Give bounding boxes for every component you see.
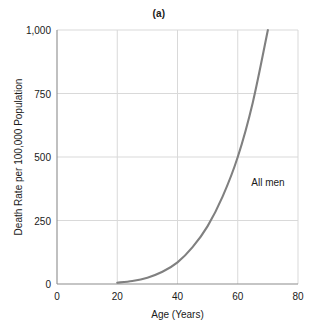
y-tick-label-1000: 1,000 xyxy=(26,25,51,36)
x-tick-label-40: 40 xyxy=(172,291,184,302)
x-axis-label: Age (Years) xyxy=(151,309,203,320)
chart-plot-area: 1,000 750 500 250 0 0 20 40 60 80 Age (Y… xyxy=(0,0,318,324)
series-annotation-all-men: All men xyxy=(251,177,284,188)
x-tick-label-60: 60 xyxy=(232,291,244,302)
x-tick-labels: 0 20 40 60 80 xyxy=(54,291,304,302)
y-tick-label-750: 750 xyxy=(34,89,51,100)
x-tick-label-0: 0 xyxy=(54,291,60,302)
y-tick-label-250: 250 xyxy=(34,216,51,227)
y-axis-label: Death Rate per 100,000 Population xyxy=(13,79,24,236)
x-tick-label-80: 80 xyxy=(292,291,304,302)
x-tick-label-20: 20 xyxy=(112,291,124,302)
y-tick-label-0: 0 xyxy=(45,279,51,290)
y-tick-labels: 1,000 750 500 250 0 xyxy=(26,25,51,290)
chart-figure: (a) 1,000 750 500 250 0 xyxy=(0,0,318,324)
series-line-all-men xyxy=(117,30,268,283)
y-tick-label-500: 500 xyxy=(34,152,51,163)
